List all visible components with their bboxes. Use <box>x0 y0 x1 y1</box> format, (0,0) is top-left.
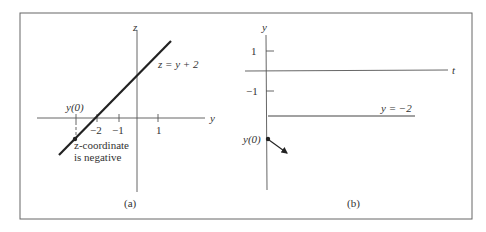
panel-b-caption: (b) <box>347 197 360 210</box>
panel-b-t-axis-label: t <box>452 64 456 76</box>
panel-b-y-axis <box>266 35 267 190</box>
panel-a-point-label: y(0) <box>65 101 84 114</box>
panel-b-t-axis <box>245 70 448 71</box>
panel-a-y-axis-label: y <box>209 112 215 124</box>
panel-a-line-label: z = y + 2 <box>157 58 199 70</box>
panel-a: z y −2 −1 1 y(0) z = y + 2 z-coordinate … <box>37 21 215 210</box>
panel-b-tick-label-minus1: −1 <box>246 85 258 97</box>
panel-b-point-label: y(0) <box>242 133 261 146</box>
panel-a-tick-label-1: 1 <box>156 124 162 136</box>
panel-b-equilibrium-label: y = −2 <box>380 102 412 114</box>
panel-a-tick-label-minus2: −2 <box>90 124 102 136</box>
panel-a-annotation-line2: is negative <box>74 151 121 163</box>
figure: z y −2 −1 1 y(0) z = y + 2 z-coordinate … <box>0 0 486 232</box>
panel-b-y-axis-label: y <box>261 21 267 33</box>
panel-a-tick-label-minus1: −1 <box>112 124 124 136</box>
panel-a-annotation-line1: z-coordinate <box>74 139 129 151</box>
panel-b-arrow <box>269 140 287 153</box>
panel-a-caption: (a) <box>124 197 137 210</box>
panel-b: y t 1 −1 y = −2 y(0) (b) <box>242 21 456 210</box>
panel-b-tick-label-1: 1 <box>251 45 257 57</box>
panel-a-z-axis-label: z <box>132 21 138 33</box>
